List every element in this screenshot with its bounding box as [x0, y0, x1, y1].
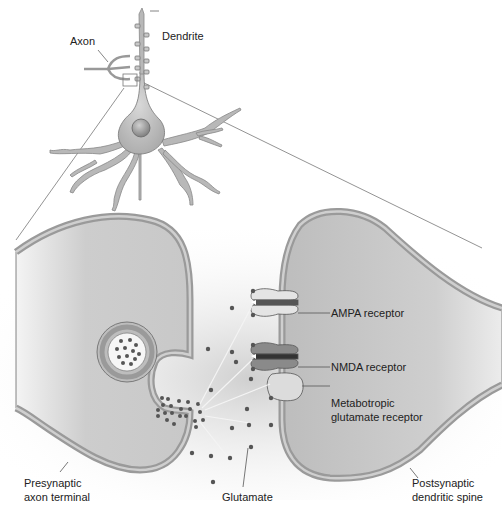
label-postsynaptic-line1: Postsynaptic	[412, 477, 474, 490]
label-mglur-line1: Metabotropic	[331, 397, 395, 410]
label-glutamate: Glutamate	[222, 491, 273, 504]
label-presynaptic-line1: Presynaptic	[24, 477, 81, 490]
label-postsynaptic-line2: dendritic spine	[412, 491, 483, 504]
label-ampa-receptor: AMPA receptor	[331, 307, 404, 320]
soma	[118, 72, 164, 154]
label-dendrite: Dendrite	[162, 30, 204, 43]
label-axon: Axon	[70, 35, 95, 48]
ampa-receptor	[251, 289, 298, 317]
label-presynaptic-line2: axon terminal	[24, 491, 90, 504]
nucleus	[132, 119, 150, 137]
nmda-receptor	[251, 343, 298, 371]
label-nmda-receptor: NMDA receptor	[331, 361, 406, 374]
synapse-diagram	[0, 0, 502, 520]
label-mglur-line2: glutamate receptor	[331, 411, 423, 424]
